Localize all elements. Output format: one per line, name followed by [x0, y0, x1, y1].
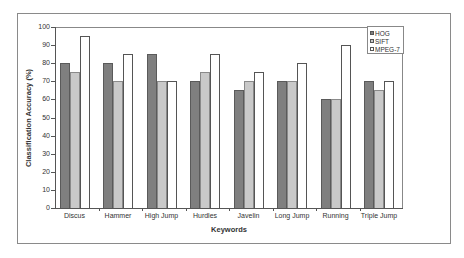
bar-sift	[244, 81, 254, 208]
bar-hog	[234, 90, 244, 208]
x-category-label: Running	[314, 212, 357, 219]
y-tick-label: 50	[30, 114, 50, 122]
y-tick	[51, 136, 55, 137]
bar-mpeg	[167, 81, 177, 208]
y-tick-label: 10	[30, 186, 50, 194]
y-tick-label: 30	[30, 150, 50, 158]
bar-hog	[60, 63, 70, 208]
y-tick-label: 0	[30, 204, 50, 212]
x-category-label: Discus	[53, 212, 96, 219]
legend-item-sift: SIFT	[370, 37, 401, 45]
bar-sift	[331, 99, 341, 208]
bar-hog	[147, 54, 157, 208]
sift-swatch-icon	[370, 39, 374, 43]
y-tick-label: 40	[30, 132, 50, 140]
y-tick	[51, 27, 55, 28]
bar-mpeg	[384, 81, 394, 208]
x-tick	[273, 208, 274, 211]
y-tick-label: 70	[30, 77, 50, 85]
bar-sift	[113, 81, 123, 208]
bar-hog	[103, 63, 113, 208]
y-tick	[51, 190, 55, 191]
y-tick	[51, 172, 55, 173]
y-tick	[51, 208, 55, 209]
bar-mpeg	[80, 36, 90, 208]
bar-mpeg	[254, 72, 264, 208]
y-tick	[51, 81, 55, 82]
y-tick	[51, 45, 55, 46]
x-category-label: Hurdles	[184, 212, 227, 219]
bar-mpeg	[123, 54, 133, 208]
bar-sift	[157, 81, 167, 208]
y-tick-label: 100	[30, 23, 50, 31]
bar-sift	[374, 90, 384, 208]
x-category-label: Hammer	[97, 212, 140, 219]
x-tick	[186, 208, 187, 211]
x-axis-title: Keywords	[55, 225, 403, 234]
x-tick	[142, 208, 143, 211]
x-category-label: Long Jump	[271, 212, 314, 219]
x-tick	[316, 208, 317, 211]
legend-item-hog: HOG	[370, 29, 401, 37]
hog-swatch-icon	[370, 31, 374, 35]
bar-mpeg	[341, 45, 351, 208]
x-tick	[229, 208, 230, 211]
legend-item-mpeg7: MPEG-7	[370, 45, 401, 53]
y-tick-label: 60	[30, 95, 50, 103]
bar-hog	[277, 81, 287, 208]
x-category-label: Triple Jump	[358, 212, 401, 219]
bar-sift	[70, 72, 80, 208]
legend-label: HOG	[375, 30, 390, 37]
legend-label: SIFT	[375, 38, 389, 45]
legend: HOG SIFT MPEG-7	[367, 26, 404, 54]
y-tick-label: 20	[30, 168, 50, 176]
mpeg7-swatch-icon	[370, 47, 374, 51]
y-tick	[51, 63, 55, 64]
bar-mpeg	[297, 63, 307, 208]
x-category-label: High Jump	[140, 212, 183, 219]
bar-hog	[190, 81, 200, 208]
bar-sift	[287, 81, 297, 208]
x-tick	[99, 208, 100, 211]
y-tick	[51, 99, 55, 100]
x-category-label: Javelin	[227, 212, 270, 219]
y-tick-label: 80	[30, 59, 50, 67]
legend-label: MPEG-7	[375, 46, 400, 53]
bar-hog	[321, 99, 331, 208]
bar-mpeg	[210, 54, 220, 208]
y-axis	[55, 27, 56, 209]
bar-hog	[364, 81, 374, 208]
y-tick	[51, 118, 55, 119]
y-tick	[51, 154, 55, 155]
y-tick-label: 90	[30, 41, 50, 49]
y-axis-title: Classification Accuracy (%)	[24, 69, 33, 167]
x-tick	[360, 208, 361, 211]
bar-sift	[200, 72, 210, 208]
